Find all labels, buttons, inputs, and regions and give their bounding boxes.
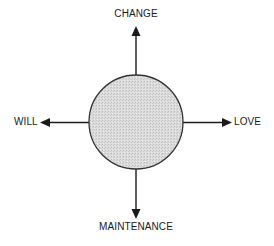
- diagram-svg: [0, 0, 274, 246]
- diagram-canvas: CHANGE WILL LOVE MAINTENANCE: [0, 0, 274, 246]
- arrow-down-maintenance: [132, 169, 141, 219]
- arrow-right-love: [182, 118, 232, 127]
- arrowhead-up-icon: [132, 26, 141, 36]
- arrowhead-right-icon: [222, 118, 232, 127]
- label-change: CHANGE: [114, 8, 157, 20]
- arrow-left-will: [40, 118, 90, 127]
- arrowhead-left-icon: [40, 118, 50, 127]
- arrow-up-change: [132, 26, 141, 75]
- label-love: LOVE: [234, 116, 261, 128]
- label-will: WILL: [14, 116, 38, 128]
- center-circle: [89, 75, 183, 169]
- arrowhead-down-icon: [132, 209, 141, 219]
- label-maintenance: MAINTENANCE: [99, 221, 173, 233]
